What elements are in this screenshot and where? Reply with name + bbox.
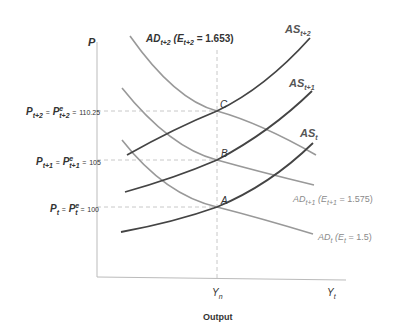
x-tick-yt: Yt <box>327 288 336 300</box>
point-a-label: A <box>221 196 228 206</box>
ad-label-t2: ADt+2 (Et+2 = 1.653) <box>146 34 234 46</box>
point-c-label: C <box>220 100 227 110</box>
ad-curve-t2 <box>130 36 316 155</box>
y-axis-label: P <box>88 37 95 48</box>
x-axis <box>97 277 346 280</box>
as-label-t: ASt <box>300 128 318 141</box>
x-axis-title: Output <box>203 313 233 322</box>
as-label-t1: ASt+1 <box>289 78 315 91</box>
ad-label-t1: ADt+1 (Et+1 = 1.575) <box>293 195 373 206</box>
as-label-t2: ASt+2 <box>285 24 311 37</box>
price-level-label-t2: Pt+2 = Pet+2 = 110.25 <box>26 105 100 119</box>
x-tick-yn: Yn <box>212 288 223 300</box>
price-level-label-t1: Pt+1 = Pet+1 = 105 <box>36 155 101 169</box>
point-b-label: B <box>221 149 228 159</box>
ad-label-t: ADt (Et = 1.5) <box>318 233 372 244</box>
price-level-label-t: Pt = Pet = 100 <box>50 202 99 216</box>
